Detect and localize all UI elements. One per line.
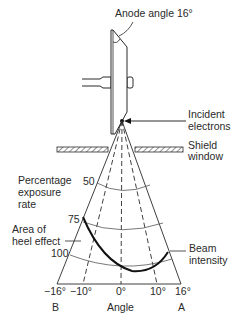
shield-label-line2: window	[187, 150, 223, 162]
anode	[82, 22, 133, 134]
heel-label-line1: Area of	[12, 223, 46, 235]
isodose-75	[83, 222, 163, 230]
tick-neg16: −16°	[44, 285, 66, 297]
anode-angle-label: Anode angle 16°	[115, 7, 193, 19]
side-a-label: A	[178, 301, 185, 313]
percentage-label-line3: rate	[18, 198, 36, 210]
tick-0: 0°	[116, 285, 126, 297]
incident-electrons-arrow	[124, 118, 186, 124]
heel-label-line2: heel effect	[12, 235, 60, 247]
isodose-100-label: 100	[51, 247, 69, 259]
incident-label-line2: electrons	[188, 120, 231, 132]
tick-16: 16°	[175, 285, 191, 297]
tick-neg10: −10°	[70, 285, 92, 297]
axis-title: Angle	[107, 301, 134, 313]
anode-angle-leader	[119, 22, 133, 36]
isodose-50	[97, 183, 150, 191]
beam-label-line1: Beam	[189, 242, 217, 254]
shield-right	[135, 147, 183, 152]
tick-10: 10°	[150, 285, 166, 297]
shield-left	[57, 147, 108, 152]
isodose-50-label: 50	[83, 175, 95, 187]
percentage-label-line2: exposure	[18, 186, 61, 198]
incident-label-line1: Incident	[188, 108, 225, 120]
anode-stem	[82, 77, 111, 88]
heel-effect-diagram: Anode angle 16° Incident electrons Shiel…	[0, 0, 240, 321]
isodose-75-label: 75	[68, 213, 80, 225]
anode-knob	[127, 77, 133, 88]
side-b-label: B	[52, 301, 59, 313]
beam-label-line2: intensity	[189, 254, 228, 266]
percentage-label-line1: Percentage	[18, 174, 72, 186]
